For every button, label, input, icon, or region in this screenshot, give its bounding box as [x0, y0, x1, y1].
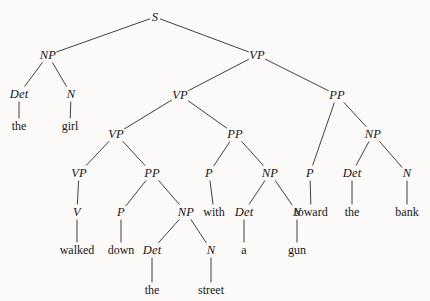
tree-node-s: S [152, 11, 158, 24]
tree-branch [53, 63, 67, 86]
tree-branch [25, 63, 43, 87]
tree-leaf-street: street [198, 284, 224, 296]
tree-branch [310, 181, 311, 204]
tree-node-p: P [117, 206, 125, 219]
tree-node-n: N [293, 206, 302, 219]
tree-node-det: Det [235, 206, 254, 219]
tree-node-n: N [67, 88, 76, 101]
tree-leaf-down: down [108, 244, 135, 256]
tree-branch [77, 181, 78, 204]
tree-node-vp: VP [249, 49, 265, 62]
tree-node-n: N [207, 244, 216, 257]
tree-branch [123, 142, 145, 166]
tree-branch [313, 103, 335, 165]
tree-node-np: NP [262, 167, 278, 180]
tree-branch [356, 142, 369, 165]
tree-branch [249, 181, 265, 205]
tree-branch [57, 19, 150, 52]
tree-branch [344, 103, 366, 127]
tree-node-vp: VP [172, 89, 188, 102]
tree-leaf-walked: walked [60, 244, 95, 256]
tree-branch [159, 181, 180, 205]
tree-leaf-a: a [241, 244, 246, 256]
tree-node-det: Det [143, 244, 162, 257]
tree-branch [210, 181, 213, 204]
tree-node-vp: VP [71, 167, 87, 180]
tree-node-det: Det [10, 88, 29, 101]
tree-branch [242, 142, 263, 166]
tree-leaf-with: with [203, 206, 224, 218]
tree-node-pp: PP [329, 89, 345, 102]
tree-node-np: NP [178, 206, 194, 219]
tree-node-p: P [306, 167, 314, 180]
tree-node-v: V [73, 206, 81, 219]
tree-leaf-bank: bank [395, 206, 418, 218]
tree-node-np: NP [40, 49, 56, 62]
tree-leaf-girl: girl [62, 120, 79, 132]
tree-leaf-gun: gun [288, 244, 306, 256]
tree-branch [70, 102, 71, 118]
tree-branch [189, 59, 249, 90]
tree-node-p: P [205, 167, 213, 180]
tree-branch [159, 220, 179, 243]
tree-node-pp: PP [227, 128, 243, 141]
tree-node-n: N [403, 167, 412, 180]
tree-branch [191, 220, 206, 243]
syntax-tree-figure: SNPVPDetNthegirlVPPPVPPPPNPVPPPPNPtoward… [0, 0, 430, 301]
tree-branch [380, 142, 402, 168]
tree-branch [266, 59, 329, 90]
tree-branch [86, 142, 109, 166]
tree-leaf-the: the [12, 120, 27, 132]
tree-node-np: NP [365, 128, 381, 141]
tree-branch [214, 142, 230, 166]
tree-node-pp: PP [144, 167, 160, 180]
tree-leaf-the: the [345, 206, 360, 218]
tree-leaf-the: the [145, 284, 160, 296]
tree-branch [275, 181, 292, 205]
tree-node-vp: VP [108, 128, 124, 141]
tree-branch [124, 100, 171, 129]
tree-branch [160, 19, 248, 52]
tree-branch [126, 181, 146, 206]
tree-branch [188, 101, 226, 128]
tree-node-det: Det [343, 167, 362, 180]
